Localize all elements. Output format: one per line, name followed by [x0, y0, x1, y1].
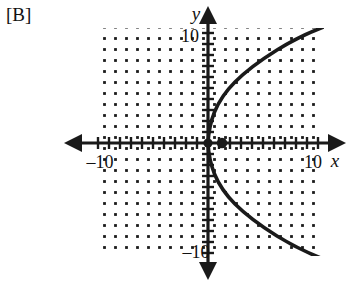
figure-root: [B]: [0, 0, 352, 285]
x-axis-left-arrowhead: [64, 134, 82, 152]
y-axis-label: y: [190, 3, 201, 24]
focus-point: [217, 138, 227, 148]
coordinate-graph: y x 10 –10 –10 10: [0, 0, 352, 285]
x-axis-label: x: [330, 150, 340, 171]
x-axis-tick-label-positive-ten: 10: [304, 152, 322, 172]
x-axis-tick-label-negative-ten: –10: [86, 152, 114, 172]
y-axis-top-arrowhead: [199, 6, 217, 24]
y-axis-bottom-arrowhead: [199, 262, 217, 280]
vertex-point: [203, 138, 212, 147]
y-axis-tick-label-positive-ten: 10: [181, 26, 199, 46]
y-axis-tick-label-negative-ten: –10: [182, 242, 210, 262]
